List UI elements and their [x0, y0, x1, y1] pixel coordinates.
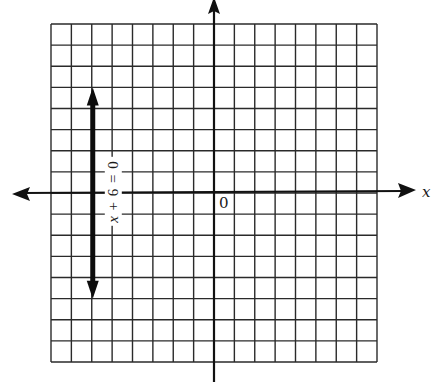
axes — [12, 0, 416, 382]
x-axis-label: x — [422, 183, 431, 201]
graph-canvas: x 0 — [0, 0, 432, 382]
coordinate-graph: x 0 x + 6 = 0 — [0, 0, 432, 382]
equation-variable: x — [105, 215, 121, 223]
equation-label: x + 6 = 0 — [105, 157, 122, 226]
line-down-arrow-icon — [87, 281, 99, 299]
line-up-arrow-icon — [87, 87, 99, 105]
origin-label: 0 — [219, 194, 229, 212]
equation-rest: + 6 = 0 — [105, 160, 121, 215]
